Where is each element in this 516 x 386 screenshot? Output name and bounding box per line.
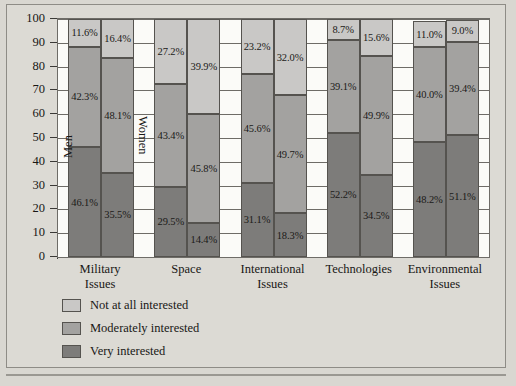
bar-value-label: 39.1% <box>330 81 357 92</box>
y-tick-mark <box>50 42 57 43</box>
bar-segment[interactable]: 39.4% <box>446 42 479 136</box>
bar-segment[interactable]: 11.6% <box>68 19 101 47</box>
bar-segment[interactable]: 8.7% <box>327 19 360 40</box>
y-tick-mark <box>50 18 57 19</box>
bar-value-label: 48.1% <box>104 110 131 121</box>
bar-segment[interactable]: 40.0% <box>413 47 446 142</box>
stacked-bar-international-issues-men[interactable]: 31.1%45.6%23.2% <box>241 19 274 257</box>
bar-value-label: 29.5% <box>157 216 184 227</box>
stacked-bar-environmental-issues-men[interactable]: 48.2%40.0%11.0% <box>413 19 446 257</box>
category-label-line: Environmental <box>392 262 498 277</box>
bar-value-label: 39.9% <box>190 61 217 72</box>
stacked-bar-technologies-men[interactable]: 52.2%39.1%8.7% <box>327 19 360 257</box>
y-tick-mark <box>50 89 57 90</box>
y-tick-label: 40 <box>0 153 45 168</box>
bar-segment[interactable]: 31.1% <box>241 183 274 257</box>
bar-segment[interactable]: 16.4% <box>101 19 134 58</box>
y-tick-label: 80 <box>0 58 45 73</box>
series-label-women: Women <box>135 116 150 155</box>
series-label-men: Men <box>61 135 76 158</box>
stacked-bar-environmental-issues-women[interactable]: 51.1%39.4%9.0% <box>446 19 479 257</box>
y-tick-label: 70 <box>0 82 45 97</box>
legend-swatch <box>62 345 81 358</box>
bar-segment[interactable]: 45.8% <box>187 114 220 223</box>
bar-value-label: 35.5% <box>104 209 131 220</box>
bar-value-label: 43.4% <box>157 130 184 141</box>
chart-legend: Not at all interestedModerately interest… <box>62 296 199 365</box>
legend-swatch <box>62 299 81 312</box>
bar-segment[interactable]: 39.1% <box>327 40 360 133</box>
legend-swatch <box>62 322 81 335</box>
bar-value-label: 45.8% <box>190 163 217 174</box>
bar-segment[interactable]: 39.9% <box>187 19 220 114</box>
legend-label: Not at all interested <box>90 298 188 313</box>
y-tick-label: 90 <box>0 34 45 49</box>
bar-segment[interactable]: 11.0% <box>413 21 446 47</box>
bar-value-label: 18.3% <box>277 230 304 241</box>
bar-segment[interactable]: 42.3% <box>68 47 101 148</box>
bar-segment[interactable]: 35.5% <box>101 173 134 257</box>
bar-segment[interactable]: 48.1% <box>101 58 134 172</box>
category-label-line: Issues <box>47 277 153 292</box>
bar-value-label: 32.0% <box>277 52 304 63</box>
chart-screenshot: 46.1%42.3%11.6%35.5%48.1%16.4%29.5%43.4%… <box>0 0 516 386</box>
bar-segment[interactable]: 29.5% <box>154 187 187 257</box>
bar-segment[interactable]: 18.3% <box>274 213 307 257</box>
y-tick-mark <box>50 161 57 162</box>
bar-value-label: 51.1% <box>449 191 476 202</box>
legend-item[interactable]: Moderately interested <box>62 319 199 338</box>
bar-segment[interactable]: 49.7% <box>274 95 307 213</box>
bar-value-label: 16.4% <box>104 33 131 44</box>
stacked-bar-technologies-women[interactable]: 34.5%49.9%15.6% <box>360 19 393 257</box>
bar-value-label: 45.6% <box>244 123 271 134</box>
bar-segment[interactable]: 15.6% <box>360 19 393 56</box>
legend-item[interactable]: Very interested <box>62 342 199 361</box>
y-tick-label: 60 <box>0 106 45 121</box>
y-tick-mark <box>50 185 57 186</box>
bar-segment[interactable]: 34.5% <box>360 175 393 257</box>
category-label: EnvironmentalIssues <box>392 262 498 292</box>
y-tick-label: 100 <box>0 11 45 26</box>
stacked-bar-international-issues-women[interactable]: 18.3%49.7%32.0% <box>274 19 307 257</box>
bar-value-label: 42.3% <box>71 91 98 102</box>
bar-segment[interactable]: 23.2% <box>241 19 274 74</box>
plot-area: 46.1%42.3%11.6%35.5%48.1%16.4%29.5%43.4%… <box>57 18 490 258</box>
y-tick-mark <box>50 113 57 114</box>
bar-value-label: 46.1% <box>71 197 98 208</box>
bar-value-label: 40.0% <box>416 89 443 100</box>
bar-segment[interactable]: 48.2% <box>413 142 446 257</box>
bar-segment[interactable]: 52.2% <box>327 133 360 257</box>
legend-label: Moderately interested <box>90 321 199 336</box>
bar-value-label: 48.2% <box>416 194 443 205</box>
bar-segment[interactable]: 14.4% <box>187 223 220 257</box>
bar-segment[interactable]: 49.9% <box>360 56 393 175</box>
bar-value-label: 9.0% <box>452 25 473 36</box>
bottom-divider <box>6 374 506 376</box>
bar-value-label: 39.4% <box>449 83 476 94</box>
bar-value-label: 31.1% <box>244 214 271 225</box>
stacked-bar-space-women[interactable]: 14.4%45.8%39.9% <box>187 19 220 257</box>
category-label-line: Issues <box>392 277 498 292</box>
y-tick-mark <box>50 256 57 257</box>
y-tick-label: 20 <box>0 201 45 216</box>
bar-segment[interactable]: 45.6% <box>241 74 274 183</box>
y-tick-mark <box>50 137 57 138</box>
stacked-bar-space-men[interactable]: 29.5%43.4%27.2% <box>154 19 187 257</box>
legend-item[interactable]: Not at all interested <box>62 296 199 315</box>
bar-segment[interactable]: 32.0% <box>274 19 307 95</box>
bar-value-label: 49.9% <box>363 110 390 121</box>
bar-segment[interactable]: 51.1% <box>446 135 479 257</box>
y-tick-mark <box>50 232 57 233</box>
y-tick-mark <box>50 208 57 209</box>
y-tick-label: 50 <box>0 130 45 145</box>
bar-segment[interactable]: 43.4% <box>154 84 187 187</box>
bar-segment[interactable]: 9.0% <box>446 20 479 41</box>
bar-value-label: 27.2% <box>157 46 184 57</box>
stacked-bar-military-issues-women[interactable]: 35.5%48.1%16.4% <box>101 19 134 257</box>
bar-value-label: 14.4% <box>190 234 217 245</box>
bar-segment[interactable]: 27.2% <box>154 19 187 84</box>
bar-segment[interactable]: 46.1% <box>68 147 101 257</box>
bar-value-label: 52.2% <box>330 189 357 200</box>
bar-value-label: 23.2% <box>244 41 271 52</box>
y-tick-label: 10 <box>0 225 45 240</box>
